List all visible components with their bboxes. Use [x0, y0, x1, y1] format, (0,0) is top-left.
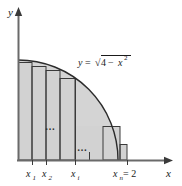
tick-label-x2-base: x — [41, 168, 47, 179]
y-axis-arrowhead — [15, 7, 22, 16]
equation-equals: = — [85, 57, 91, 68]
tick-label-x1: x 1 — [25, 168, 36, 182]
tick-label-xn-suffix: = 2 — [123, 168, 136, 179]
ellipsis-upper: … — [45, 121, 56, 132]
x-axis-arrowhead — [164, 157, 173, 164]
tick-label-xi-sub: i — [78, 174, 80, 182]
equation-exponent: 2 — [124, 54, 128, 62]
riemann-sum-figure: y x x 1 x 2 x i x n = 2 … … y = √ 4 — [0, 0, 182, 186]
tick-label-x2: x 2 — [41, 168, 53, 182]
ellipsis-lower: … — [77, 142, 88, 153]
equation-minus: − — [108, 57, 114, 68]
equation-lhs: y — [77, 57, 83, 68]
tick-label-xi-base: x — [70, 168, 76, 179]
x-axis-label: x — [165, 167, 171, 179]
curve-equation-label: y = √ 4 − x 2 — [77, 54, 131, 68]
tick-label-x1-base: x — [25, 168, 31, 179]
tick-label-x1-sub: 1 — [33, 174, 37, 182]
equation-radicand-b: x — [117, 57, 123, 68]
tick-label-xn: x n = 2 — [112, 168, 136, 182]
equation-radicand-a: 4 — [101, 57, 106, 68]
tick-label-xi: x i — [70, 168, 80, 182]
tick-label-xn-base: x — [112, 168, 118, 179]
y-axis-label: y — [7, 6, 13, 18]
tick-label-x2-sub: 2 — [49, 174, 53, 182]
figure-svg: y x x 1 x 2 x i x n = 2 … … y = √ 4 — [0, 0, 182, 186]
